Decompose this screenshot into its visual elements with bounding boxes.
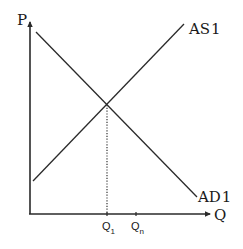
y-axis-label: P bbox=[17, 11, 27, 29]
ad1-curve bbox=[36, 32, 197, 197]
x-axis-label: Q bbox=[214, 206, 226, 224]
ad-as-diagram: P Q AS1 AD1 Q1 Qn bbox=[0, 0, 243, 249]
as1-curve bbox=[33, 24, 184, 181]
q1-label: Q1 bbox=[102, 220, 116, 236]
as1-label: AS1 bbox=[188, 20, 221, 38]
qn-label: Qn bbox=[131, 220, 144, 236]
ad1-label: AD1 bbox=[197, 188, 231, 206]
